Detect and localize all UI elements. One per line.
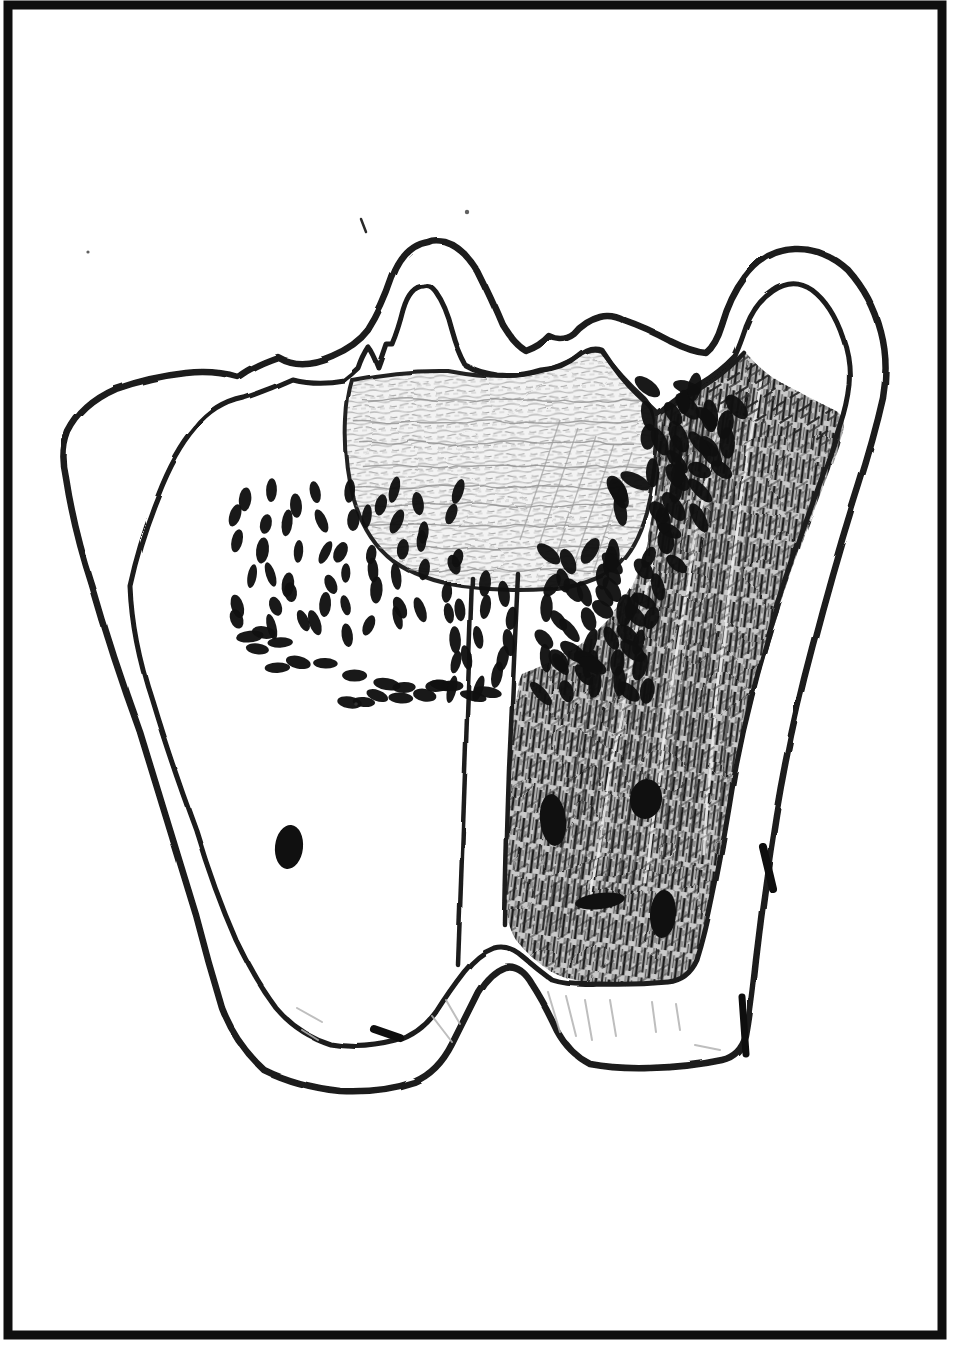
scanned-page xyxy=(0,0,962,1345)
speck-dot xyxy=(539,757,542,760)
speck-dot xyxy=(86,250,89,253)
sketch-canvas xyxy=(0,0,962,1345)
speck-dot xyxy=(354,702,358,706)
bean xyxy=(646,458,659,487)
bean xyxy=(613,666,625,696)
speck-dot xyxy=(465,210,469,214)
ink-tick xyxy=(742,997,746,1054)
